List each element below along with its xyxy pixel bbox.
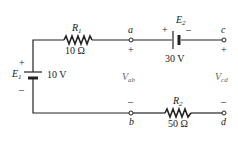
node-d-label: d [221,116,227,127]
e2-label: E2 [175,14,186,27]
vcd-label: Vcd [215,71,228,84]
r1-label: R1 [71,22,82,35]
node-c-label: c [221,24,226,35]
node-d-polarity: – [220,96,227,107]
battery-e2-icon [173,31,179,49]
r1-value: 10 Ω [65,45,85,56]
e1-label: E1 [11,68,22,81]
circuit-diagram: R1 10 Ω E2 + – 30 V + E1 10 V – a + c + … [0,0,238,144]
resistor-r2-icon [165,109,191,117]
e1-minus: – [18,84,25,95]
node-c-polarity: + [221,44,227,55]
r2-label: R2 [172,95,183,108]
r2-value: 50 Ω [168,118,188,129]
terminal-c [222,38,226,42]
vab-label: Vab [122,71,136,84]
e2-value: 30 V [165,53,185,64]
node-a-label: a [128,24,133,35]
terminal-a [129,38,133,42]
e1-value: 10 V [47,69,67,80]
wire-top-left [33,40,64,72]
e1-plus: + [19,57,25,68]
battery-e1-icon [24,72,42,78]
terminal-b [129,111,133,115]
node-b-polarity: – [127,96,134,107]
resistor-r1-icon [64,36,92,44]
wire-bottom-left [33,78,129,113]
node-b-label: b [129,116,134,127]
terminal-d [222,111,226,115]
node-a-polarity: + [128,44,134,55]
e2-minus: – [185,24,192,35]
e2-plus: + [162,24,168,35]
